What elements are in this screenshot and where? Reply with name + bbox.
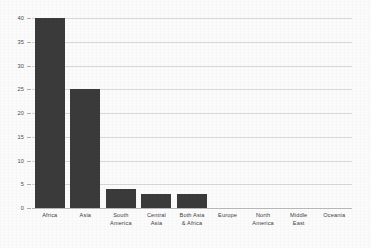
y-tick-label: 5 bbox=[21, 181, 24, 187]
x-tick-label-line: Europe bbox=[210, 211, 246, 219]
bars bbox=[32, 18, 352, 208]
y-tick-mark-25 bbox=[27, 89, 31, 90]
y-tick-mark-5 bbox=[27, 184, 31, 185]
x-tick-label: Europe bbox=[210, 211, 246, 219]
bar[interactable] bbox=[141, 194, 171, 208]
x-tick-label-line: Middle bbox=[281, 211, 317, 219]
bar[interactable] bbox=[177, 194, 207, 208]
gridline-0 bbox=[32, 208, 352, 209]
x-tick-label: SouthAmerica bbox=[103, 211, 139, 227]
x-tick-label: CentralAsia bbox=[139, 211, 175, 227]
x-tick-label: Asia bbox=[68, 211, 104, 219]
x-tick-label-line: North bbox=[245, 211, 281, 219]
y-tick-label: 10 bbox=[17, 158, 24, 164]
bar[interactable] bbox=[35, 18, 65, 208]
y-tick-mark-35 bbox=[27, 42, 31, 43]
y-tick-label: 40 bbox=[17, 15, 24, 21]
x-tick-label: Oceania bbox=[316, 211, 352, 219]
x-tick-label-line: & Africa bbox=[174, 219, 210, 227]
x-tick-label: NorthAmerica bbox=[245, 211, 281, 227]
y-tick-label: 0 bbox=[21, 205, 24, 211]
y-tick-mark-40 bbox=[27, 18, 31, 19]
bar-chart: 0510152025303540 AfricaAsiaSouthAmericaC… bbox=[0, 0, 371, 248]
y-tick-label: 35 bbox=[17, 39, 24, 45]
y-tick-mark-30 bbox=[27, 66, 31, 67]
x-tick-label-line: America bbox=[245, 219, 281, 227]
y-tick-label: 15 bbox=[17, 134, 24, 140]
x-tick-label: Both Asia& Africa bbox=[174, 211, 210, 227]
x-tick-label-line: Oceania bbox=[316, 211, 352, 219]
bar[interactable] bbox=[106, 189, 136, 208]
x-tick-label-line: South bbox=[103, 211, 139, 219]
bar[interactable] bbox=[70, 89, 100, 208]
y-tick-label: 30 bbox=[17, 63, 24, 69]
y-tick-mark-15 bbox=[27, 137, 31, 138]
x-tick-label: Africa bbox=[32, 211, 68, 219]
y-tick-mark-10 bbox=[27, 161, 31, 162]
plot-area: 0510152025303540 bbox=[32, 18, 352, 208]
y-tick-mark-20 bbox=[27, 113, 31, 114]
x-tick-label-line: Africa bbox=[32, 211, 68, 219]
x-tick-label: MiddleEast bbox=[281, 211, 317, 227]
x-tick-label-line: Central bbox=[139, 211, 175, 219]
y-tick-mark-0 bbox=[27, 208, 31, 209]
x-tick-label-line: Asia bbox=[139, 219, 175, 227]
x-tick-label-line: Asia bbox=[68, 211, 104, 219]
y-tick-label: 20 bbox=[17, 110, 24, 116]
y-tick-label: 25 bbox=[17, 86, 24, 92]
x-tick-label-line: East bbox=[281, 219, 317, 227]
x-tick-label-line: Both Asia bbox=[174, 211, 210, 219]
x-tick-label-line: America bbox=[103, 219, 139, 227]
x-axis-category-labels: AfricaAsiaSouthAmericaCentralAsiaBoth As… bbox=[32, 211, 352, 241]
